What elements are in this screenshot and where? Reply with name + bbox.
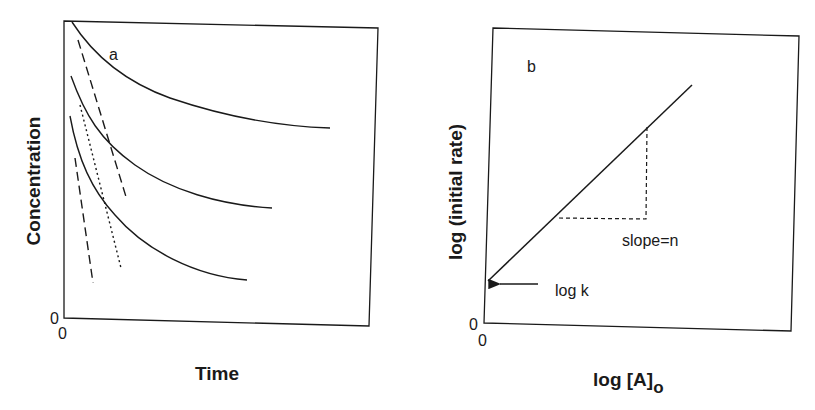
panel-a-x-origin: 0	[58, 325, 67, 342]
panel-a-tangent-bottom-dashed	[75, 158, 93, 283]
panel-a: a 0 0 Time Concentration	[23, 21, 378, 384]
panel-b-y-origin: 0	[469, 316, 478, 333]
figure-canvas: a 0 0 Time Concentration b log k slope=n…	[0, 0, 815, 410]
panel-a-y-axis-label: Concentration	[23, 117, 44, 246]
panel-b-regression-line	[488, 85, 692, 281]
panel-b-letter: b	[527, 58, 536, 75]
panel-a-frame	[64, 21, 378, 326]
panel-a-tangent-top-dashed	[78, 40, 127, 200]
panel-a-curve-bottom	[70, 116, 247, 280]
panel-b-x-axis-label-subscript: o	[653, 378, 663, 397]
panel-b: b log k slope=n 0 0 log [A]o log (initia…	[445, 28, 799, 397]
panel-b-x-origin: 0	[478, 332, 487, 349]
panel-b-intercept-label: log k	[555, 282, 590, 299]
panel-a-tangent-middle-dotted	[80, 105, 121, 268]
panel-b-x-axis-label-main: log [A]	[593, 369, 653, 390]
panel-b-slope-label: slope=n	[622, 232, 679, 249]
panel-b-y-axis-label: log (initial rate)	[445, 124, 466, 260]
panel-a-letter: a	[109, 46, 118, 63]
panel-a-x-axis-label: Time	[195, 363, 239, 384]
panel-a-curve-top	[72, 22, 330, 128]
panel-b-x-axis-label: log [A]o	[593, 369, 664, 397]
